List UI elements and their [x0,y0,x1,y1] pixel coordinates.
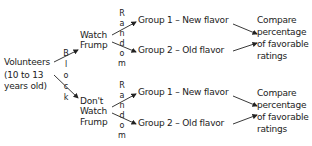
random-letter: n [118,30,126,38]
treatment-label-line: Frump [80,117,107,127]
outcome-line: Compare [257,88,296,98]
block-letter: B [62,50,70,58]
random-letter: d [118,112,126,120]
random-letter: o [118,50,126,58]
random-letter: R [118,82,126,90]
random-letter: R [118,10,126,18]
random-letter: a [118,20,126,28]
group-2-old-flavor: Group 2 – Old flavor [138,118,224,128]
block-letter: o [62,72,70,80]
outcome-line: Compare [257,15,296,25]
group-1-new-flavor: Group 1 – New flavor [138,15,228,25]
treatment-label-line: Watch [80,106,107,116]
outcome-line: percentage [257,27,306,37]
treatment-label-line: Frump [80,40,107,50]
group-1-new-flavor: Group 1 – New flavor [138,87,228,97]
block-letter: c [62,83,70,91]
root-label-line: years old) [4,81,47,91]
random-letter: m [118,132,126,140]
root-label-line: (10 to 13 [4,70,43,80]
outcome-line: of favorable [257,112,309,122]
random-letter: d [118,40,126,48]
treatment-label-line: Watch [80,30,107,40]
outcome-line: ratings [257,124,287,134]
random-letter: a [118,92,126,100]
random-letter: o [118,122,126,130]
group-2-old-flavor: Group 2 – Old flavor [138,45,224,55]
outcome-line: percentage [257,100,306,110]
outcome-line: ratings [257,51,287,61]
treatment-label-line: Don't [80,96,103,106]
random-letter: m [118,60,126,68]
outcome-line: of favorable [257,39,309,49]
random-letter: n [118,102,126,110]
block-letter: k [62,94,70,102]
block-letter: l [62,61,70,69]
root-label-line: Volunteers [4,57,50,67]
